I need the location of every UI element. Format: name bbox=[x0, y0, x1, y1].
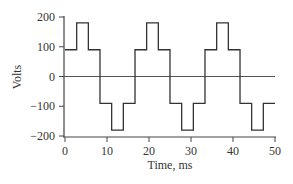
y-tick-label: 0 bbox=[49, 70, 55, 84]
y-tick-label: −200 bbox=[30, 129, 55, 143]
x-tick-label: 30 bbox=[185, 144, 197, 158]
y-axis: 2001000−100−200 bbox=[30, 10, 64, 143]
x-tick-label: 40 bbox=[227, 144, 239, 158]
chart: 2001000−100−200 01020304050 Time, ms Vol… bbox=[0, 0, 293, 184]
y-tick-label: 100 bbox=[37, 40, 55, 54]
y-tick-label: 200 bbox=[37, 10, 55, 24]
x-tick-label: 50 bbox=[269, 144, 281, 158]
y-tick-label: −100 bbox=[30, 99, 55, 113]
x-tick-label: 20 bbox=[143, 144, 155, 158]
x-tick-label: 0 bbox=[62, 144, 68, 158]
x-tick-label: 10 bbox=[101, 144, 113, 158]
x-axis: 01020304050 bbox=[62, 137, 281, 158]
y-axis-title: Volts bbox=[10, 64, 24, 89]
x-axis-title: Time, ms bbox=[148, 158, 193, 172]
plot-area bbox=[64, 23, 275, 130]
